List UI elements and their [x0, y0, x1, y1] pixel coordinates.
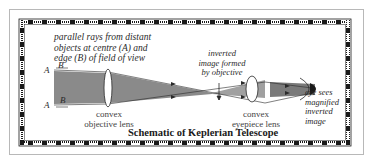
diagram-title: Schematic of Keplerian Telescope	[128, 127, 278, 138]
point-a-bottom-label: A	[44, 101, 50, 110]
converging-beam	[110, 73, 212, 103]
eye-sees-label: eye sees magnified inverted image	[305, 88, 339, 126]
inverted-image-label: inverted image formed by objective	[187, 49, 257, 78]
point-b-top-label: B	[58, 61, 64, 70]
parallel-rays-label: parallel rays from distant objects at ce…	[54, 32, 151, 64]
point-a-top-label: A	[44, 66, 50, 75]
eyepiece-lens	[246, 76, 258, 102]
point-b-bottom-label: B	[60, 96, 66, 105]
objective-lens	[104, 69, 112, 107]
telescope-diagram	[0, 0, 370, 165]
